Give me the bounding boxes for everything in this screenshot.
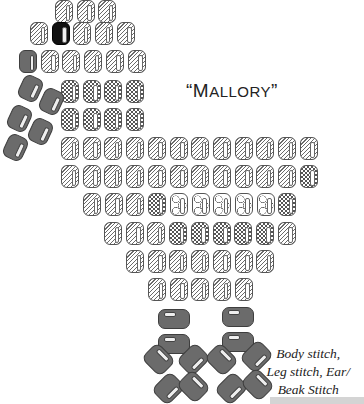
- foot-bead: [176, 369, 211, 404]
- bead-hatch: [191, 165, 209, 188]
- caption-line-1: Body stitch,: [266, 345, 350, 363]
- bead-hatch: [191, 278, 209, 301]
- bead-hatch: [147, 222, 165, 245]
- bead-check: [83, 80, 101, 103]
- bead-pattern-canvas: [0, 0, 364, 404]
- bead-hatch: [126, 137, 144, 160]
- bead-hatch: [170, 137, 188, 160]
- bead-check: [234, 222, 252, 245]
- bead-check: [126, 108, 144, 131]
- bead-hatch: [148, 137, 166, 160]
- bead-hatch: [148, 278, 166, 301]
- bead-hatch: [105, 193, 123, 216]
- bead-hatch: [256, 250, 274, 273]
- bead-hatch: [126, 165, 144, 188]
- bead-check: [191, 222, 209, 245]
- bead-hatch: [148, 250, 166, 273]
- bead-hatch: [83, 137, 101, 160]
- bead-hatch: [61, 137, 79, 160]
- bead-check: [213, 222, 231, 245]
- title-open-quote: “: [186, 80, 193, 101]
- bead-check: [104, 80, 122, 103]
- bead-hatch: [98, 0, 116, 23]
- pattern-title: “MALLORY”: [186, 80, 278, 102]
- bead-hatch: [191, 250, 209, 273]
- bead-check: [104, 108, 122, 131]
- leg-bead: [222, 307, 254, 327]
- bead-hatch: [126, 222, 144, 245]
- bead-circle: [213, 193, 231, 216]
- bead-hatch: [278, 222, 296, 245]
- bead-hatch: [213, 165, 231, 188]
- bead-hatch: [83, 193, 101, 216]
- bead-hatch: [104, 137, 122, 160]
- bead-hatch: [106, 50, 124, 73]
- bead-check: [126, 80, 144, 103]
- bead-check: [83, 108, 101, 131]
- bead-hatch: [213, 278, 231, 301]
- bead-hatch: [278, 165, 296, 188]
- bead-hatch: [126, 250, 144, 273]
- bead-hatch: [77, 0, 95, 23]
- bead-hatch: [169, 250, 187, 273]
- leg-bead: [158, 309, 190, 329]
- bead-hatch: [256, 137, 274, 160]
- bead-hatch: [235, 165, 253, 188]
- bead-hatch: [30, 22, 48, 45]
- bead-gray: [19, 50, 37, 73]
- bead-hatch: [213, 250, 231, 273]
- bead-hatch: [235, 250, 253, 273]
- bead-hatch: [300, 137, 318, 160]
- bead-circle: [257, 193, 275, 216]
- bead-hatch: [235, 137, 253, 160]
- bead-hatch: [191, 137, 209, 160]
- bead-circle: [235, 193, 253, 216]
- bead-hatch: [83, 165, 101, 188]
- bead-circle: [170, 193, 188, 216]
- title-close-quote: ”: [271, 80, 278, 101]
- bead-hatch: [278, 137, 296, 160]
- bead-hatch: [235, 278, 253, 301]
- bead-hatch: [148, 165, 166, 188]
- bead-check: [256, 222, 274, 245]
- bead-hatch: [95, 22, 113, 45]
- bead-hatch: [256, 165, 274, 188]
- bead-hatch: [73, 22, 91, 45]
- bead-hatch: [213, 137, 231, 160]
- caption-line-2: Leg stitch, Ear/: [266, 363, 350, 381]
- bead-hatch: [62, 50, 80, 73]
- eye-bead: [52, 22, 70, 45]
- bead-hatch: [61, 165, 79, 188]
- title-first-letter: M: [193, 80, 209, 101]
- bead-check: [300, 165, 318, 188]
- bead-hatch: [170, 165, 188, 188]
- bead-check: [148, 193, 166, 216]
- beak-bead: [1, 132, 31, 164]
- stitch-caption: Body stitch, Leg stitch, Ear/ Beak Stitc…: [266, 345, 350, 399]
- bead-check: [278, 193, 296, 216]
- bead-hatch: [126, 193, 144, 216]
- bead-circle: [192, 193, 210, 216]
- bead-hatch: [41, 50, 59, 73]
- bead-hatch: [84, 50, 102, 73]
- bead-hatch: [104, 222, 122, 245]
- bead-hatch: [104, 165, 122, 188]
- bead-hatch: [117, 22, 135, 45]
- bead-hatch: [170, 278, 188, 301]
- title-rest: ALLORY: [209, 83, 271, 100]
- bead-hatch: [128, 50, 146, 73]
- bead-hatch: [55, 0, 73, 23]
- bead-check: [169, 222, 187, 245]
- footer-bar: [270, 397, 364, 404]
- bead-check: [61, 108, 79, 131]
